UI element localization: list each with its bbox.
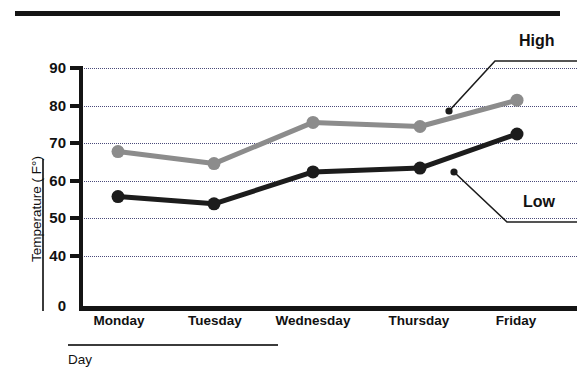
point-high-friday [511,94,524,107]
point-high-thursday [414,120,427,133]
point-high-monday [112,145,125,158]
annotation-label-low: Low [523,193,555,211]
point-low-monday [112,190,125,203]
annotation-anchor-high-dot [445,107,452,114]
point-low-thursday [414,162,427,175]
point-high-tuesday [208,157,221,170]
point-low-tuesday [208,197,221,210]
annotation-anchor-low-dot [450,168,457,175]
series-overlay [0,0,577,385]
point-low-wednesday [307,165,320,178]
temperature-line-chart: 90 80 70 60 50 40 0 Monday Tuesday Wedne… [0,0,577,385]
annotation-leader-low [454,172,577,222]
point-high-wednesday [307,116,320,129]
annotation-label-high: High [519,32,555,50]
point-low-friday [511,128,524,141]
